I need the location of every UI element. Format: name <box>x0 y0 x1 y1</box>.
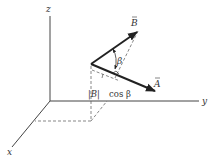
vector-projection-diagram: z y x B A β |B| cos β <box>0 0 221 166</box>
angle-beta-label: β <box>116 56 122 66</box>
vector-b <box>91 32 137 64</box>
angle-arc <box>113 49 116 69</box>
y-projection-line <box>91 101 107 121</box>
x-axis <box>12 101 50 147</box>
z-axis-label: z <box>45 4 51 14</box>
bracket-tick <box>102 74 103 78</box>
projection-trig-label: cos β <box>109 89 131 99</box>
vector-b-label: B <box>130 18 138 28</box>
projection-magnitude-label: |B| <box>88 89 100 100</box>
y-axis-label: y <box>201 96 208 106</box>
perpendicular-drop-line <box>115 31 138 78</box>
vector-a <box>91 64 155 91</box>
x-axis-label: x <box>7 147 12 157</box>
vector-a-label: A <box>153 79 161 89</box>
coordinate-axes <box>12 16 199 147</box>
